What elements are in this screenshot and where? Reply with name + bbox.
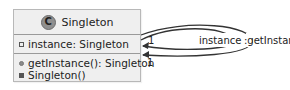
class-name: Singleton — [62, 16, 114, 29]
private-method-icon — [19, 73, 24, 78]
method-row: getInstance(): Singleton — [19, 57, 140, 69]
class-header: C Singleton — [14, 10, 140, 35]
self-association-instance[interactable] — [141, 29, 235, 50]
multiplicity-instance: 1 — [148, 35, 154, 46]
method-text: Singleton() — [28, 69, 86, 81]
arrowhead-icon — [142, 42, 149, 49]
method-row: Singleton() — [19, 69, 140, 81]
self-association-getinstance[interactable] — [141, 25, 252, 56]
method-text: getInstance(): Singleton — [28, 57, 154, 69]
methods-compartment: getInstance(): Singleton Singleton() — [14, 54, 140, 81]
attribute-text: instance: Singleton — [28, 38, 129, 50]
public-method-icon — [19, 61, 24, 66]
attributes-compartment: instance: Singleton — [14, 35, 140, 54]
class-box-singleton[interactable]: C Singleton instance: Singleton getInsta… — [13, 9, 141, 82]
association-label-instance: instance — [199, 35, 241, 46]
private-field-icon — [19, 42, 24, 47]
class-stereotype-icon: C — [41, 15, 56, 30]
association-label-getinstance: :getInstance() — [244, 35, 290, 46]
attribute-row: instance: Singleton — [19, 38, 129, 50]
